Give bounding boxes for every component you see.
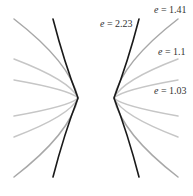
hyperbola-branch-right-e-1-41	[114, 19, 178, 177]
label-e-1-1: e = 1.1	[158, 47, 186, 57]
hyperbola-branch-right-e-2-23	[114, 19, 139, 177]
label-e-2-23: e = 2.23	[100, 19, 133, 29]
label-e-1-41: e = 1.41	[154, 5, 187, 15]
hyperbola-branch-left-e-2-23	[53, 19, 78, 177]
label-e-1-03: e = 1.03	[154, 86, 187, 96]
hyperbola-branch-left-e-1-03	[14, 80, 78, 116]
hyperbola-branch-left-e-1-41	[14, 19, 78, 177]
hyperbola-family-diagram	[0, 0, 193, 196]
